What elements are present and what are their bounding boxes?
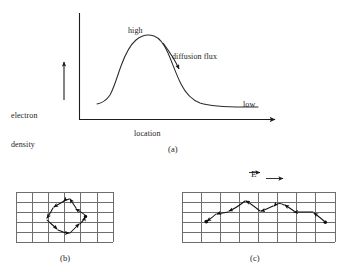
- x-axis-label: location: [134, 129, 161, 139]
- panel-c-caption: (c): [250, 254, 260, 264]
- walk-segment: [274, 204, 284, 206]
- walk-end-marker: [204, 220, 208, 224]
- panel-b-caption: (b): [60, 254, 70, 264]
- panel-c-lattice: [182, 192, 335, 242]
- walk-start-marker: [324, 221, 328, 225]
- peak-label: high: [128, 26, 143, 36]
- y-axis-label-line1: electron: [11, 111, 38, 121]
- tail-label: low: [243, 100, 255, 110]
- figure-vector-layer: [0, 0, 354, 278]
- electron-density-curve: [97, 35, 258, 107]
- figure-root: electron density high diffusion flux low…: [0, 0, 354, 278]
- walk-segment: [70, 199, 76, 208]
- walk-segment: [207, 214, 216, 221]
- y-axis-label-line2: density: [11, 140, 38, 150]
- walk-segment: [285, 205, 294, 211]
- diffusion-flux-label: diffusion flux: [172, 52, 217, 62]
- walk-segment: [261, 206, 273, 211]
- panel-b-lattice: [16, 192, 113, 242]
- electric-field-label: E: [251, 170, 257, 180]
- panel-c-drift-walk-path: [204, 201, 327, 224]
- panel-a-caption: (a): [168, 145, 178, 155]
- panel-a-curve: [97, 35, 258, 107]
- y-axis-label: electron density: [11, 92, 38, 168]
- walk-node-marker: [84, 215, 87, 218]
